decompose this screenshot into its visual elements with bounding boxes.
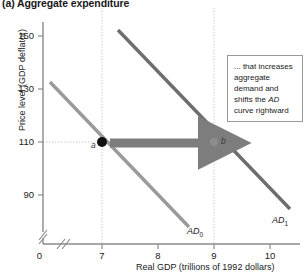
guide-lines (43, 8, 214, 244)
x-tick-label-9: 9 (204, 250, 224, 261)
x-tick-label-7: 7 (92, 250, 112, 261)
ad1-curve-label-sub: 1 (285, 220, 289, 227)
ad0-curve-label-base: AD (187, 226, 200, 236)
ad1-curve-label: AD1 (272, 215, 288, 227)
annotation-callout: ... that increases aggregate demand and … (227, 55, 303, 122)
ad1-curve-label-base: AD (272, 215, 285, 225)
y-tick-label-90: 90 (8, 189, 34, 200)
ad0-curve-label-sub: 0 (200, 231, 204, 238)
y-tick-label-150: 150 (8, 30, 34, 41)
y-tick-label-130: 130 (8, 83, 34, 94)
annotation-text-after: curve rightward (234, 106, 289, 115)
y-tick-label-110: 110 (8, 136, 34, 147)
aggregate-expenditure-figure: (a) Aggregate expenditure (0, 0, 306, 277)
x-axis-label: Real GDP (trillions of 1992 dollars) (136, 262, 274, 272)
origin-label: 0 (16, 250, 42, 261)
annotation-text-before: ... that increases aggregate demand and … (234, 62, 293, 104)
ad0-curve (50, 82, 189, 227)
x-tick-label-10: 10 (260, 250, 280, 261)
ad0-curve-label: AD0 (187, 226, 203, 238)
chart-plot-area (0, 0, 306, 277)
point-label-a: a (91, 140, 96, 150)
point-label-b: b (221, 136, 226, 146)
x-tick-label-8: 8 (148, 250, 168, 261)
equilibrium-point-b (210, 138, 218, 146)
annotation-emphasis: AD (268, 95, 279, 104)
equilibrium-point-a (97, 137, 107, 147)
